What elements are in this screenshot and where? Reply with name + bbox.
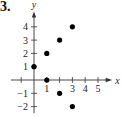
data-point — [57, 91, 62, 96]
y-axis-arrow-icon — [32, 12, 36, 18]
x-tick-label: 4 — [83, 83, 88, 94]
data-point — [70, 104, 75, 109]
data-point — [44, 51, 49, 56]
x-tick-label: 5 — [96, 83, 101, 94]
x-axis-arrow-icon — [106, 78, 112, 82]
data-point — [70, 24, 75, 29]
y-tick-label: 3 — [23, 35, 28, 46]
y-axis-label: y — [31, 0, 37, 10]
data-point — [57, 38, 62, 43]
y-tick-label: 2 — [23, 48, 28, 59]
x-tick-label: 3 — [70, 83, 75, 94]
data-point — [31, 64, 36, 69]
data-point — [44, 77, 49, 82]
x-axis-label: x — [114, 75, 120, 86]
y-tick-label: −2 — [17, 101, 28, 112]
x-tick-label: 1 — [44, 83, 49, 94]
y-tick-label: 4 — [23, 21, 28, 32]
y-tick-label: −1 — [17, 88, 28, 99]
scatter-plot: 1345−2−11234xy — [0, 0, 122, 117]
y-tick-label: 1 — [23, 61, 28, 72]
